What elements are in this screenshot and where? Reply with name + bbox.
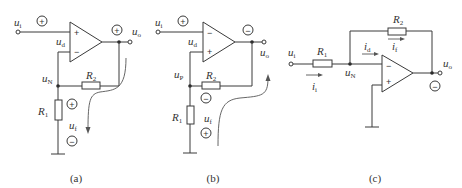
resistor-r1-a xyxy=(55,100,62,120)
input-terminal-c xyxy=(289,62,293,66)
output-terminal-a xyxy=(128,40,132,44)
panel-c: − + ui R1 uN R2 uo ii id if − (c) xyxy=(288,13,453,185)
svg-text:ud: ud xyxy=(188,35,198,49)
svg-text:R1: R1 xyxy=(316,45,328,59)
panel-a: + − ui ud uN uo R2 R1 uf + + xyxy=(14,16,142,185)
svg-text:uo: uo xyxy=(443,57,453,71)
polarity-uf-top-b: − xyxy=(203,94,208,104)
svg-text:R2: R2 xyxy=(85,69,97,83)
polarity-output-a: + xyxy=(114,26,119,36)
resistor-r2-a xyxy=(82,82,100,89)
svg-text:R2: R2 xyxy=(205,69,217,83)
svg-text:ii: ii xyxy=(312,80,317,94)
resistor-r2-b xyxy=(202,82,220,89)
svg-text:ud: ud xyxy=(56,35,66,49)
svg-text:uN: uN xyxy=(42,72,53,86)
opamp-a-plus: + xyxy=(74,28,79,38)
svg-text:ui: ui xyxy=(155,16,163,30)
caption-b: (b) xyxy=(207,172,220,185)
resistor-r1-c xyxy=(313,60,332,67)
opamp-a-minus: − xyxy=(74,47,79,57)
resistor-r2-c xyxy=(388,28,406,35)
output-terminal-b xyxy=(262,40,266,44)
opamp-b-plus: + xyxy=(207,47,212,57)
svg-text:R1: R1 xyxy=(171,111,183,125)
polarity-input-b: + xyxy=(180,17,185,27)
opamp-c-minus: − xyxy=(386,61,391,71)
panel-b: − + ui ud uP uo R2 R1 uf + − − + (b) xyxy=(155,16,271,185)
svg-text:ui: ui xyxy=(14,16,22,30)
caption-a: (a) xyxy=(70,172,83,185)
output-terminal-c xyxy=(438,71,442,75)
input-terminal-b xyxy=(156,30,160,34)
svg-text:uP: uP xyxy=(174,68,184,82)
svg-text:uo: uo xyxy=(132,25,142,39)
polarity-output-c: − xyxy=(432,82,437,92)
svg-text:R1: R1 xyxy=(37,105,49,119)
polarity-uf-bottom-a: − xyxy=(69,137,74,147)
polarity-output-b: − xyxy=(245,26,250,36)
caption-c: (c) xyxy=(369,172,382,185)
polarity-uf-bottom-b: + xyxy=(203,129,208,139)
svg-text:uo: uo xyxy=(260,46,270,60)
polarity-uf-top-a: + xyxy=(69,100,74,110)
opamp-c-plus: + xyxy=(386,77,391,87)
svg-text:uf: uf xyxy=(69,119,78,133)
input-terminal-a xyxy=(16,30,20,34)
svg-text:R2: R2 xyxy=(392,13,404,27)
svg-text:uN: uN xyxy=(345,66,356,80)
svg-text:ui: ui xyxy=(288,46,296,60)
svg-text:if: if xyxy=(392,40,398,54)
svg-text:uf: uf xyxy=(204,112,213,126)
svg-text:id: id xyxy=(364,40,371,54)
circuit-figure: + − ui ud uN uo R2 R1 uf + + xyxy=(0,0,462,188)
opamp-b-minus: − xyxy=(207,28,212,38)
polarity-input-a: + xyxy=(39,17,44,27)
resistor-r1-b xyxy=(187,106,194,124)
